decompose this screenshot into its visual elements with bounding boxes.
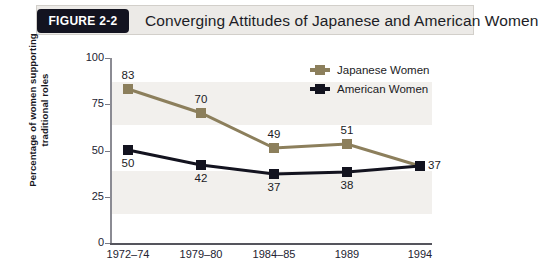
legend-label-japanese: Japanese Women [337,64,429,76]
data-label-american-1972-74: 50 [111,157,145,169]
figure-title: Converging Attitudes of Japanese and Ame… [145,6,538,36]
data-label-japanese-1989: 51 [330,124,364,136]
data-label-japanese-1979-80: 70 [184,93,218,105]
legend-label-american: American Women [337,83,428,95]
data-label-japanese-1984-85: 49 [257,128,291,140]
legend-item-american: American Women [310,81,460,97]
data-label-american-1984-85: 37 [257,181,291,193]
legend-swatch-american-icon [310,87,330,91]
legend-item-japanese: Japanese Women [310,62,460,78]
data-label-japanese-1994: 37 [428,159,462,171]
data-label-american-1989: 38 [330,179,364,191]
data-label-japanese-1972-74: 83 [111,69,145,81]
chart-legend: Japanese Women American Women [310,62,460,100]
legend-swatch-japanese-icon [310,68,330,72]
figure-header-bar: FIGURE 2-2 Converging Attitudes of Japan… [36,5,474,35]
chart-container: Percentage of women supporting tradition… [0,36,482,276]
data-label-american-1979-80: 42 [184,172,218,184]
